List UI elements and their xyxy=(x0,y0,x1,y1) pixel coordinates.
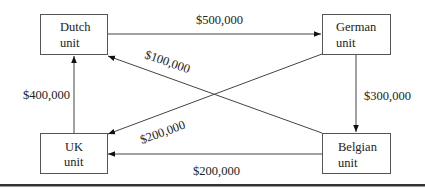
edge-label-german-uk: $200,000 xyxy=(138,118,187,147)
node-uk-label-line1: UK xyxy=(65,140,83,154)
node-german-unit: German unit xyxy=(323,15,391,55)
netting-diagram: $500,000 $300,000 $100,000 $200,000 $200… xyxy=(0,0,425,188)
node-uk-unit: UK unit xyxy=(41,134,108,174)
node-uk-label-line2: unit xyxy=(64,155,84,169)
node-german-label-line1: German xyxy=(336,20,377,34)
edge-label-german-belgian: $300,000 xyxy=(364,89,411,103)
node-german-label-line2: unit xyxy=(336,36,356,50)
node-dutch-label-line1: Dutch xyxy=(60,20,91,34)
node-belgian-unit: Belgian unit xyxy=(323,134,391,174)
node-belgian-label-line2: unit xyxy=(338,156,358,170)
bottom-rule xyxy=(0,184,425,187)
edge-label-belgian-uk: $200,000 xyxy=(193,164,240,178)
edge-label-uk-dutch: $400,000 xyxy=(23,88,70,102)
node-belgian-label-line1: Belgian xyxy=(338,140,378,154)
edge-label-belgian-dutch: $100,000 xyxy=(143,48,192,76)
node-dutch-unit: Dutch unit xyxy=(41,15,108,55)
node-dutch-label-line2: unit xyxy=(60,36,80,50)
edge-german-to-uk xyxy=(108,54,322,134)
edge-label-dutch-german: $500,000 xyxy=(196,13,243,27)
